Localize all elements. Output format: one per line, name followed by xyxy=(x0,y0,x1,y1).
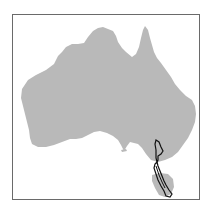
australia-mainland xyxy=(21,26,196,162)
kangaroo-island xyxy=(121,149,127,152)
australia-map xyxy=(0,0,216,215)
